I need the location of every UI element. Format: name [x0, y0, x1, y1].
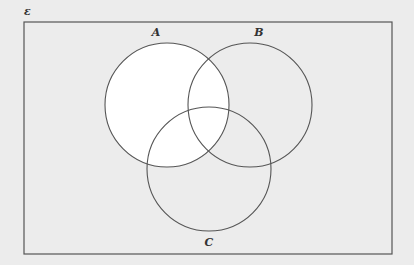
label-c: C [205, 236, 214, 249]
label-b: B [253, 26, 263, 39]
universal-set-label: ε [24, 5, 31, 18]
venn-diagram: ε A B C [0, 0, 414, 265]
label-a: A [151, 26, 161, 39]
shaded-region-a [105, 43, 229, 167]
